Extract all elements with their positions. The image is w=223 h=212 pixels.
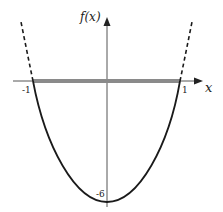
tick-label-right-root: 1 bbox=[182, 85, 188, 95]
tick-label-left-root: -1 bbox=[22, 85, 31, 95]
x-axis-label: x bbox=[205, 80, 213, 95]
curve-dashed-right bbox=[180, 22, 192, 81]
y-axis-arrow-icon bbox=[104, 17, 111, 26]
tick-label-minimum: -6 bbox=[96, 189, 105, 199]
curve-dashed-left bbox=[21, 22, 33, 81]
y-axis-label: f(x) bbox=[79, 10, 101, 24]
x-axis-arrow-icon bbox=[194, 78, 203, 85]
function-plot: f(x) x -1 1 -6 bbox=[0, 0, 223, 212]
highlighted-interval bbox=[33, 79, 180, 83]
